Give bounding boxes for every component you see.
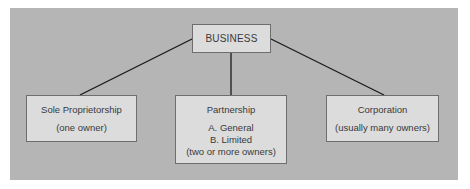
node-detail: (usually many owners) bbox=[327, 122, 438, 134]
connector-to-sole-proprietorship bbox=[80, 39, 192, 95]
node-detail: A. General bbox=[176, 122, 286, 134]
node-title: Partnership bbox=[176, 104, 286, 116]
node-partnership: Partnership A. General B. Limited (two o… bbox=[175, 95, 287, 164]
node-sole-proprietorship: Sole Proprietorship (one owner) bbox=[26, 95, 137, 142]
connector-to-corporation bbox=[271, 39, 384, 95]
node-title: Sole Proprietorship bbox=[27, 104, 136, 116]
node-business: BUSINESS bbox=[192, 24, 271, 53]
node-corporation: Corporation (usually many owners) bbox=[326, 95, 439, 142]
node-detail: B. Limited bbox=[176, 134, 286, 146]
node-detail: (two or more owners) bbox=[176, 146, 286, 158]
node-detail: (one owner) bbox=[27, 122, 136, 134]
node-title: Corporation bbox=[327, 104, 438, 116]
node-business-label: BUSINESS bbox=[205, 33, 257, 45]
